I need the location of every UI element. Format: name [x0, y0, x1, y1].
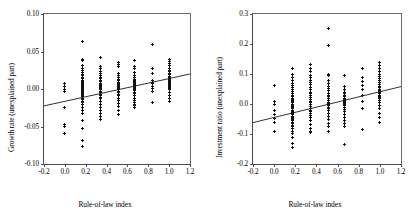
data-point — [291, 146, 294, 149]
data-point — [63, 125, 66, 128]
data-point — [81, 127, 84, 130]
data-point — [81, 145, 84, 148]
data-point — [151, 90, 154, 93]
x-axis-title-left: Rule-of-law index — [0, 200, 210, 209]
x-tick-label: 0.6 — [123, 168, 132, 176]
y-axis-title-left: Growth rate (unexplained part) — [4, 0, 18, 215]
y-tick-mark — [250, 104, 253, 105]
y-tick-label: 0.00 — [27, 85, 39, 93]
y-tick-mark — [41, 127, 44, 128]
x-tick-label: -0.2 — [39, 168, 50, 176]
data-point — [273, 117, 276, 120]
data-point — [361, 67, 364, 70]
data-point — [168, 100, 171, 103]
data-point — [309, 70, 312, 73]
x-tick-label: 0.8 — [354, 168, 363, 176]
x-tick-mark — [359, 164, 360, 167]
x-tick-mark — [127, 164, 128, 167]
y-tick-mark — [41, 89, 44, 90]
data-point — [343, 85, 346, 88]
data-point — [273, 84, 276, 87]
panel-investment-ratio: Investment ratio (unexplained part) -0.2… — [210, 0, 420, 215]
x-tick-label: 0.0 — [270, 168, 279, 176]
data-point — [273, 100, 276, 103]
data-point — [378, 112, 381, 115]
x-tick-mark — [338, 164, 339, 167]
data-point — [291, 136, 294, 139]
y-tick-label: -0.1 — [237, 130, 248, 138]
data-point — [291, 132, 294, 135]
data-point — [273, 103, 276, 106]
x-tick-mark — [148, 164, 149, 167]
y-tick-label: -0.2 — [237, 160, 248, 168]
data-point — [343, 74, 346, 77]
data-point — [309, 67, 312, 70]
data-point — [327, 115, 330, 118]
data-point — [81, 109, 84, 112]
x-tick-label: 1.2 — [397, 168, 406, 176]
data-point — [151, 72, 154, 75]
data-point — [327, 125, 330, 128]
data-point — [133, 59, 136, 62]
x-tick-mark — [190, 164, 191, 167]
data-point — [63, 132, 66, 135]
data-point — [343, 143, 346, 146]
data-point — [273, 109, 276, 112]
x-tick-mark — [380, 164, 381, 167]
x-tick-mark — [253, 164, 254, 167]
y-tick-mark — [250, 44, 253, 45]
data-point — [327, 44, 330, 47]
data-point — [361, 100, 364, 103]
x-tick-label: 0.2 — [81, 168, 90, 176]
plot-area-left: -0.10-0.050.000.050.10-0.20.00.20.40.60.… — [43, 13, 191, 165]
data-point — [117, 105, 120, 108]
data-point — [81, 119, 84, 122]
data-point — [309, 63, 312, 66]
data-point — [343, 116, 346, 119]
x-tick-label: 0.2 — [291, 168, 300, 176]
data-point — [99, 56, 102, 59]
data-point — [309, 123, 312, 126]
data-point — [327, 130, 330, 133]
x-tick-label: 1.0 — [165, 168, 174, 176]
x-tick-label: 0.4 — [312, 168, 321, 176]
data-point — [327, 27, 330, 30]
data-point — [151, 43, 154, 46]
data-point — [151, 101, 154, 104]
y-tick-label: 0.1 — [239, 70, 248, 78]
data-point — [361, 84, 364, 87]
x-tick-label: 0.0 — [61, 168, 70, 176]
x-tick-label: 1.0 — [376, 168, 385, 176]
data-point — [81, 40, 84, 43]
data-point — [291, 67, 294, 70]
data-point — [378, 116, 381, 119]
y-tick-label: 0.05 — [27, 48, 39, 56]
x-tick-label: 0.8 — [144, 168, 153, 176]
data-point — [133, 67, 136, 70]
y-tick-label: 0.0 — [239, 100, 248, 108]
data-point — [273, 121, 276, 124]
y-tick-mark — [250, 74, 253, 75]
y-axis-title-right: Investment ratio (unexplained part) — [212, 0, 226, 215]
data-point — [133, 106, 136, 109]
y-tick-label: -0.10 — [25, 160, 39, 168]
data-point — [63, 90, 66, 93]
data-point — [291, 76, 294, 79]
data-point — [117, 65, 120, 68]
data-point — [273, 130, 276, 133]
data-point — [343, 125, 346, 128]
y-tick-mark — [250, 134, 253, 135]
x-tick-mark — [316, 164, 317, 167]
x-tick-mark — [65, 164, 66, 167]
data-point — [361, 88, 364, 91]
data-point — [151, 67, 154, 70]
data-point — [117, 113, 120, 116]
data-point — [63, 106, 66, 109]
x-tick-label: 1.2 — [186, 168, 195, 176]
x-tick-mark — [86, 164, 87, 167]
y-tick-mark — [250, 14, 253, 15]
plot-inner-left: -0.10-0.050.000.050.10-0.20.00.20.40.60.… — [44, 14, 190, 164]
data-point — [361, 80, 364, 83]
y-tick-label: 0.10 — [27, 10, 39, 18]
data-point — [327, 74, 330, 77]
